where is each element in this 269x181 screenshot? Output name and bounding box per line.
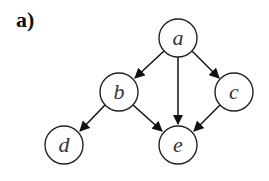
node-label-e: e [173,132,183,157]
node-label-c: c [229,79,239,104]
node-c: c [215,73,253,111]
graph-diagram: a b c d e [0,0,269,181]
edge-c-e [194,105,220,131]
edge-a-b [135,51,164,78]
edge-b-d [80,105,105,131]
edge-a-c [192,51,219,78]
node-a: a [159,19,197,57]
edge-b-e [133,105,162,131]
node-d: d [45,126,83,164]
node-label-b: b [114,79,125,104]
node-b: b [100,73,138,111]
node-label-d: d [59,132,71,157]
node-label-a: a [173,25,184,50]
node-e: e [159,126,197,164]
